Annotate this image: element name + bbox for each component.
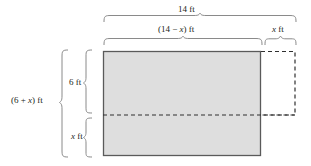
geometry-figure: 14 ft (14 − x) ft x ft (6 + x) ft 6 ft x… xyxy=(0,0,311,166)
dashed-extension-rectangle xyxy=(261,52,295,116)
label-total-height-suffix: ) ft xyxy=(32,95,43,105)
label-left-width-prefix: (14 − xyxy=(158,24,180,34)
figure-drawing-layer xyxy=(0,0,311,166)
brace-upper-height xyxy=(84,50,93,113)
label-total-width: 14 ft xyxy=(178,5,195,14)
label-left-width: (14 − x) ft xyxy=(158,25,194,34)
brace-right-width xyxy=(265,36,296,45)
brace-total-width xyxy=(104,13,296,22)
label-total-height: (6 + x) ft xyxy=(11,96,43,105)
brace-total-height xyxy=(60,50,69,157)
shaded-rectangle xyxy=(104,52,261,156)
label-lower-height: x ft xyxy=(71,132,83,141)
label-right-width: x ft xyxy=(272,25,284,34)
label-total-height-prefix: (6 + xyxy=(11,95,28,105)
label-right-width-suffix: ft xyxy=(276,24,284,34)
label-left-width-suffix: ) ft xyxy=(184,24,195,34)
label-upper-height: 6 ft xyxy=(69,78,81,87)
label-lower-height-suffix: ft xyxy=(75,131,83,141)
brace-lower-height xyxy=(84,118,93,157)
brace-left-width xyxy=(104,36,262,45)
